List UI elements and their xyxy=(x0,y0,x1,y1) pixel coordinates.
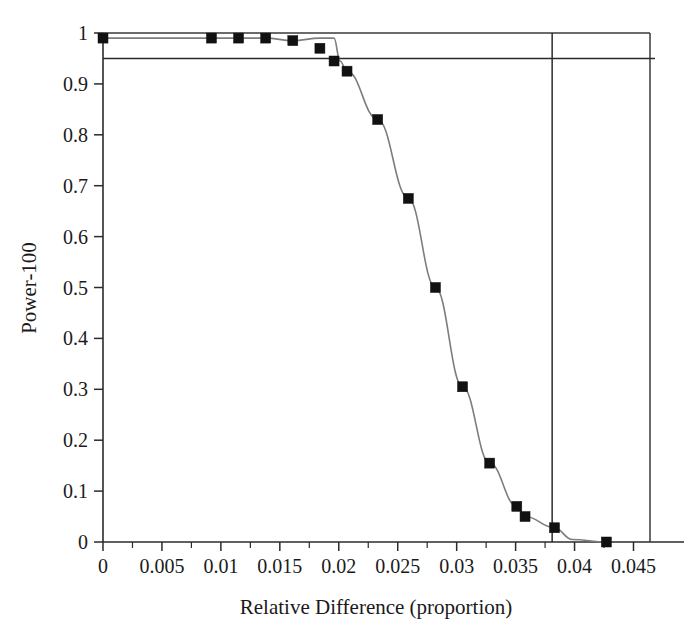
y-axis-title: Power-100 xyxy=(17,242,41,334)
y-tick-label: 0.6 xyxy=(63,226,88,248)
x-tick-label: 0.035 xyxy=(493,555,538,577)
data-point-marker xyxy=(550,523,560,533)
data-point-marker xyxy=(430,283,440,293)
y-tick-label: 1 xyxy=(78,22,88,44)
data-curve xyxy=(103,38,606,542)
reference-lines xyxy=(103,33,655,542)
y-tick-label: 0 xyxy=(78,531,88,553)
y-tick-label: 0.7 xyxy=(63,175,88,197)
x-tick-label: 0.025 xyxy=(375,555,420,577)
power-curve-chart: 00.0050.010.0150.020.0250.030.0350.040.0… xyxy=(0,0,690,631)
y-axis-ticks xyxy=(94,33,103,542)
data-point-marker xyxy=(342,66,352,76)
data-point-marker xyxy=(403,193,413,203)
y-tick-label: 0.5 xyxy=(63,277,88,299)
y-axis-tick-labels: 00.10.20.30.40.50.60.70.80.91 xyxy=(63,22,88,553)
x-axis-ticks xyxy=(103,542,633,551)
y-tick-label: 0.2 xyxy=(63,429,88,451)
x-tick-label: 0.01 xyxy=(203,555,238,577)
x-axis-title: Relative Difference (proportion) xyxy=(240,595,513,619)
x-axis-tick-labels: 00.0050.010.0150.020.0250.030.0350.040.0… xyxy=(98,555,656,577)
data-point-marker xyxy=(234,33,244,43)
data-point-marker xyxy=(512,501,522,511)
chart-figure: 00.0050.010.0150.020.0250.030.0350.040.0… xyxy=(0,0,690,631)
x-tick-label: 0.04 xyxy=(557,555,592,577)
y-tick-label: 0.1 xyxy=(63,480,88,502)
y-tick-label: 0.8 xyxy=(63,124,88,146)
x-tick-label: 0.045 xyxy=(611,555,656,577)
y-tick-label: 0.9 xyxy=(63,73,88,95)
data-point-marker xyxy=(485,458,495,468)
y-tick-label: 0.3 xyxy=(63,378,88,400)
x-tick-label: 0.005 xyxy=(139,555,184,577)
data-point-marker xyxy=(601,537,611,547)
data-point-marker xyxy=(315,43,325,53)
power-curve-line xyxy=(103,38,606,542)
data-point-marker xyxy=(288,36,298,46)
data-point-marker xyxy=(458,382,468,392)
data-point-marker xyxy=(520,512,530,522)
data-point-marker xyxy=(261,33,271,43)
y-tick-label: 0.4 xyxy=(63,327,88,349)
plot-frame xyxy=(103,33,684,542)
x-tick-label: 0.03 xyxy=(439,555,474,577)
x-tick-label: 0 xyxy=(98,555,108,577)
data-point-marker xyxy=(373,115,383,125)
data-point-marker xyxy=(329,56,339,66)
x-tick-label: 0.015 xyxy=(257,555,302,577)
data-point-marker xyxy=(206,33,216,43)
data-markers xyxy=(98,33,611,547)
data-point-marker xyxy=(98,33,108,43)
x-tick-label: 0.02 xyxy=(321,555,356,577)
